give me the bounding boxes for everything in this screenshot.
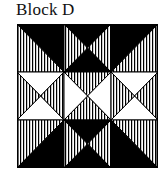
quilt-block-svg <box>17 24 158 168</box>
quilt-block-diagram <box>17 24 158 168</box>
block-title: Block D <box>16 0 75 20</box>
